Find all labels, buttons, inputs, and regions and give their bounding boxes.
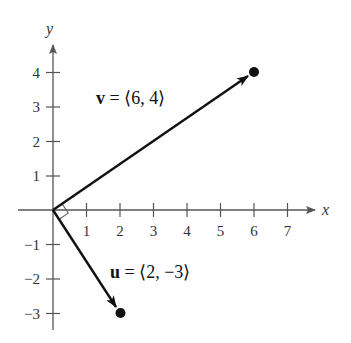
y-tick-labels: 1 2 3 4 −1 −2 −3: [24, 65, 40, 322]
vector-diagram: x y 1 2 3 4 5 6 7 1 2 3 4 −1 −2 −3: [0, 0, 351, 343]
svg-text:−3: −3: [24, 306, 40, 322]
svg-text:4: 4: [183, 223, 191, 239]
svg-text:2: 2: [116, 223, 124, 239]
svg-text:6: 6: [250, 223, 258, 239]
svg-text:3: 3: [33, 99, 41, 115]
x-tick-labels: 1 2 3 4 5 6 7: [83, 223, 292, 239]
svg-text:4: 4: [33, 65, 41, 81]
svg-text:1: 1: [83, 223, 91, 239]
vector-v-endpoint: [249, 67, 259, 77]
vector-u-label: u = ⟨2, −3⟩: [110, 262, 190, 282]
svg-text:7: 7: [284, 223, 292, 239]
vector-v-label: v = ⟨6, 4⟩: [96, 88, 165, 108]
vector-u-endpoint: [116, 308, 126, 318]
svg-text:−2: −2: [24, 271, 40, 287]
x-axis-label: x: [321, 201, 329, 218]
svg-text:1: 1: [33, 168, 41, 184]
svg-text:2: 2: [33, 134, 41, 150]
y-axis-label: y: [44, 20, 54, 38]
svg-text:−1: −1: [24, 237, 40, 253]
svg-text:3: 3: [150, 223, 158, 239]
svg-text:5: 5: [217, 223, 225, 239]
